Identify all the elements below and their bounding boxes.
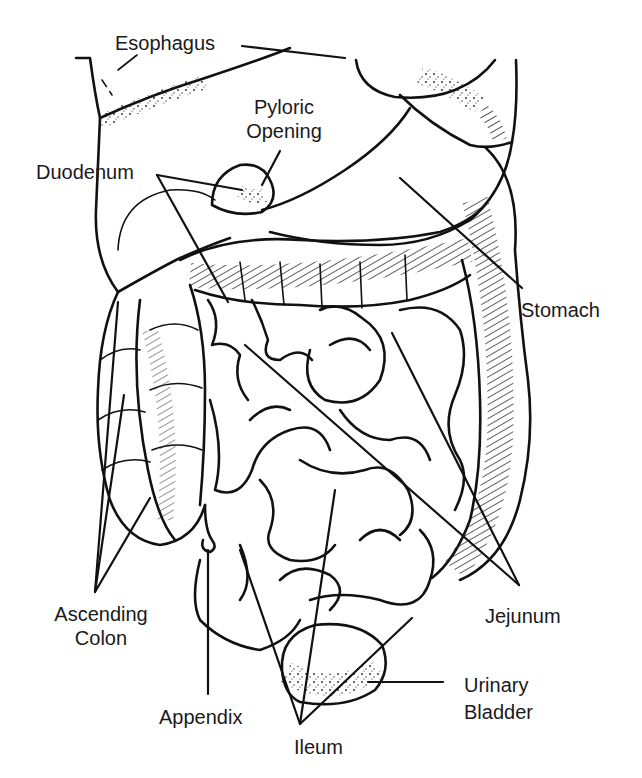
transverse-colon-shape <box>180 205 485 308</box>
label-esophagus: Esophagus <box>115 31 215 55</box>
label-ascending-line-2: Colon <box>46 626 156 650</box>
small-intestine-shape <box>195 300 464 650</box>
label-urinary-line-1: Urinary <box>464 672 533 699</box>
label-pyloric-line-2: Opening <box>234 119 334 143</box>
label-ascending-colon: Ascending Colon <box>46 602 156 650</box>
label-jejunum: Jejunum <box>485 604 561 628</box>
ascending-colon-shape <box>98 285 215 552</box>
label-urinary-line-2: Bladder <box>464 699 533 726</box>
descending-colon-shape <box>432 148 530 580</box>
label-duodenum: Duodenum <box>36 160 134 184</box>
anatomy-diagram: Esophagus Pyloric Opening Duodenum Stoma… <box>0 0 642 778</box>
label-appendix: Appendix <box>159 705 242 729</box>
label-stomach: Stomach <box>521 298 600 322</box>
label-ascending-line-1: Ascending <box>46 602 156 626</box>
label-ileum: Ileum <box>294 735 343 759</box>
label-pyloric-line-1: Pyloric <box>234 95 334 119</box>
label-pyloric-opening: Pyloric Opening <box>234 95 334 143</box>
label-urinary-bladder: Urinary Bladder <box>464 672 533 726</box>
